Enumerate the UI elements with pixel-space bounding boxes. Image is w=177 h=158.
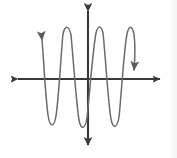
graph-figure <box>0 0 177 158</box>
sine-wave-graph-canvas <box>0 0 177 158</box>
